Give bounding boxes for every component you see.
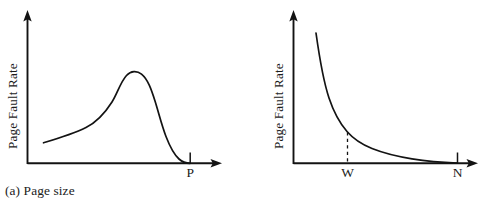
panel-a-y-axis-label: Page Fault Rate xyxy=(5,63,20,149)
panel-a-marker-p: P xyxy=(186,165,194,178)
panel-b-curve xyxy=(316,33,457,163)
panel-b-y-axis xyxy=(289,10,297,164)
panel-b-marker-w: W xyxy=(341,165,354,178)
panel-b-marker-n: N xyxy=(453,165,463,178)
panel-a-curve xyxy=(44,72,191,164)
panel-a-plot: Page Fault Rate P xyxy=(0,0,241,178)
panel-b: Page Fault Rate W N (b) Number of page f… xyxy=(241,0,483,210)
panel-b-plot: Page Fault Rate W N xyxy=(241,0,483,178)
panel-a-caption: (a) Page size xyxy=(5,183,75,199)
panel-a-y-axis xyxy=(23,10,31,164)
figure-page-fault-rate: Page Fault Rate P (a) Page size Page Fau… xyxy=(0,0,483,210)
panel-b-y-axis-label: Page Fault Rate xyxy=(271,63,286,149)
panel-a: Page Fault Rate P (a) Page size xyxy=(0,0,241,210)
